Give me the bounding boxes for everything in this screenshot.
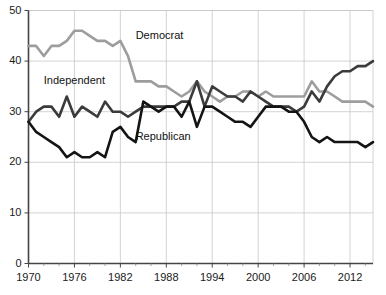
series-label-independent: Independent [44,75,105,86]
y-tick-50: 50 [9,5,21,16]
x-tick-2000: 2000 [238,272,278,283]
series-label-democrat: Democrat [136,30,184,41]
y-tick-10: 10 [9,207,21,218]
y-tick-20: 20 [9,156,21,167]
gridlines [29,11,374,264]
x-tick-1988: 1988 [146,272,186,283]
chart-plot-area [0,0,386,295]
x-tick-2006: 2006 [284,272,324,283]
x-tick-1970: 1970 [9,272,49,283]
x-tick-2012: 2012 [330,272,370,283]
plot-frame [29,11,374,264]
x-tick-1994: 1994 [192,272,232,283]
x-tick-1982: 1982 [100,272,140,283]
x-tick-1976: 1976 [54,272,94,283]
y-tick-0: 0 [15,258,21,269]
y-tick-30: 30 [9,106,21,117]
series-label-republican: Republican [136,131,191,142]
y-tick-40: 40 [9,55,21,66]
party-identification-chart: 01020304050 1970197619821988199420002006… [0,0,386,295]
data-series-lines [29,31,374,158]
